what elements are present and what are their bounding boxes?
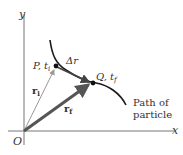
x-axis-label: x [172,124,179,137]
path-label-line2: particle [133,109,172,120]
y-axis-label: y [18,8,26,21]
point-p-label: P, ti [32,60,50,73]
point-q [91,81,96,86]
delta-r-label: Δr [65,55,79,66]
path-label-line1: Path of [133,97,170,108]
particle-path [50,40,126,105]
ri-label: ri [32,85,40,98]
vector-delta-r [57,67,89,82]
motion-diagram: y x O P, ti Q, tf Δr ri rf Path of parti… [0,0,183,155]
point-p [54,64,59,69]
rf-label: rf [64,103,73,116]
origin-label: O [13,135,22,148]
point-q-label: Q, tf [96,71,118,84]
